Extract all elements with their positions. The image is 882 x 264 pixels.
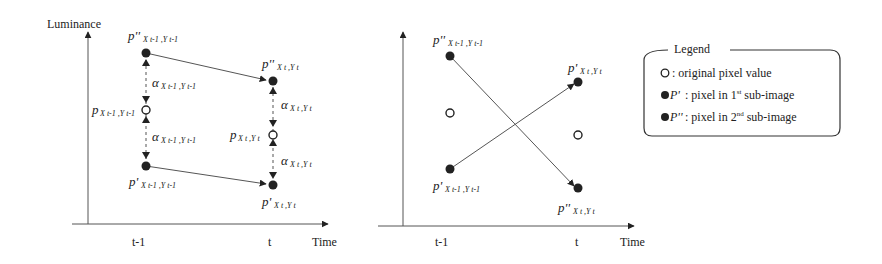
- open-circle-icon: [661, 69, 669, 77]
- point-p-cur: [269, 131, 277, 139]
- svg-text:X t ,Y t: X t ,Y t: [572, 207, 596, 216]
- svg-text:p': p': [432, 178, 443, 193]
- left-diagram: Luminance Time t-1 t p'' X t-1 ,Y t-1: [47, 17, 337, 249]
- svg-text:X t-1 ,Y t-1: X t-1 ,Y t-1: [160, 136, 196, 145]
- svg-text:X t ,Y t: X t ,Y t: [273, 201, 297, 210]
- legend-item-first-subimage: P' : pixel in 1st sub-image: [661, 88, 794, 102]
- svg-text:: pixel in 1st sub-image: : pixel in 1st sub-image: [685, 88, 794, 102]
- svg-text:X t-1 ,Y t-1: X t-1 ,Y t-1: [447, 39, 483, 48]
- point-p-cur: [574, 131, 582, 139]
- svg-text:α: α: [152, 75, 160, 90]
- svg-text:X t-1 ,Y t-1: X t-1 ,Y t-1: [99, 109, 135, 118]
- svg-text:X t-1 ,Y t-1: X t-1 ,Y t-1: [160, 82, 196, 91]
- svg-text:X t ,Y t: X t ,Y t: [276, 63, 300, 72]
- legend-item-second-subimage: P'' : pixel in 2nd sub-image: [661, 110, 797, 124]
- svg-text:X t-1 ,Y t-1: X t-1 ,Y t-1: [444, 185, 480, 194]
- point-p2-prev: [142, 49, 151, 58]
- svg-text:p'': p'': [127, 28, 140, 43]
- label-alpha-cur-top: α X t ,Y t: [281, 97, 313, 113]
- svg-text:p'': p'': [261, 56, 274, 71]
- label-p1-cur: p' X t ,Y t: [567, 60, 603, 76]
- svg-text:p': p': [261, 194, 272, 209]
- svg-text:X t ,Y t: X t ,Y t: [289, 160, 313, 169]
- label-p2-cur: p'' X t ,Y t: [261, 56, 300, 72]
- x-axis-label: Time: [620, 235, 645, 249]
- label-p1-prev: p' X t-1 ,Y t-1: [432, 178, 480, 194]
- legend: Legend : original pixel value P' : pixel…: [644, 42, 840, 136]
- label-p2-cur: p'' X t ,Y t: [557, 200, 596, 216]
- svg-text:p'': p'': [557, 200, 570, 215]
- svg-text:p': p': [567, 60, 578, 75]
- svg-text:p': p': [128, 174, 139, 189]
- point-p2-cur: [269, 77, 278, 86]
- point-p-prev: [142, 106, 150, 114]
- svg-text:X t-1 ,Y t-1: X t-1 ,Y t-1: [142, 35, 178, 44]
- point-p1-cur: [574, 78, 583, 87]
- label-p-prev: p X t-1 ,Y t-1: [91, 102, 135, 118]
- x-axis-label: Time: [312, 235, 337, 249]
- svg-text:: pixel in 2nd sub-image: : pixel in 2nd sub-image: [685, 110, 797, 124]
- svg-text:α: α: [152, 129, 160, 144]
- svg-text:X t ,Y t: X t ,Y t: [289, 104, 313, 113]
- svg-text:X t ,Y t: X t ,Y t: [237, 134, 261, 143]
- svg-text:p: p: [91, 102, 99, 117]
- svg-text:X t ,Y t: X t ,Y t: [579, 67, 603, 76]
- point-p1-prev: [446, 165, 455, 174]
- right-diagram: Time t-1 t p'' X t-1 ,Y t-1 p' X t-1 ,Y …: [378, 32, 645, 249]
- point-p2-cur: [574, 184, 583, 193]
- svg-text:p'': p'': [432, 32, 445, 47]
- tick-t: t: [268, 235, 272, 249]
- filled-circle-icon: [661, 113, 669, 121]
- filled-circle-icon: [661, 91, 669, 99]
- tick-t: t: [575, 235, 579, 249]
- point-p1-prev: [142, 162, 151, 171]
- svg-text:X t-1 ,Y t-1: X t-1 ,Y t-1: [140, 181, 176, 190]
- legend-title: Legend: [674, 42, 710, 56]
- svg-text:α: α: [281, 97, 289, 112]
- label-p1-prev: p' X t-1 ,Y t-1: [128, 174, 176, 190]
- arrow-p2-transition: [146, 53, 266, 80]
- y-axis-label: Luminance: [47, 17, 101, 31]
- svg-text:P': P': [669, 88, 680, 102]
- legend-item-original: : original pixel value: [661, 66, 771, 80]
- label-p2-prev: p'' X t-1 ,Y t-1: [432, 32, 483, 48]
- arrow-p2-to-bottom: [450, 56, 574, 186]
- label-alpha-prev-bottom: α X t-1 ,Y t-1: [152, 129, 196, 145]
- svg-text:: original pixel value: : original pixel value: [672, 66, 772, 80]
- svg-text:p: p: [229, 127, 237, 142]
- svg-text:α: α: [281, 153, 289, 168]
- label-p-cur: p X t ,Y t: [229, 127, 261, 143]
- point-p-prev: [446, 109, 454, 117]
- svg-text:P'': P'': [669, 110, 683, 124]
- label-alpha-cur-bottom: α X t ,Y t: [281, 153, 313, 169]
- point-p2-prev: [446, 52, 455, 61]
- arrow-p1-to-top: [450, 84, 574, 169]
- tick-t-minus-1: t-1: [132, 235, 145, 249]
- label-alpha-prev-top: α X t-1 ,Y t-1: [152, 75, 196, 91]
- label-p2-prev: p'' X t-1 ,Y t-1: [127, 28, 178, 44]
- point-p1-cur: [269, 181, 278, 190]
- diagram-canvas: Luminance Time t-1 t p'' X t-1 ,Y t-1: [0, 0, 882, 264]
- label-p1-cur: p' X t ,Y t: [261, 194, 297, 210]
- tick-t-minus-1: t-1: [435, 235, 448, 249]
